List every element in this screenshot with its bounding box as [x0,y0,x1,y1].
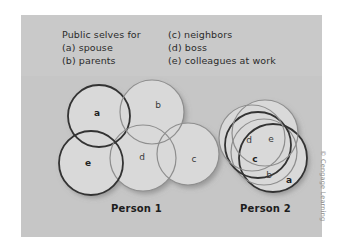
circle-label-d: d [139,152,145,162]
circle-label-a: a [286,175,292,185]
circle-label-d: d [246,135,252,145]
illustration-panel: Public selves for (a) spouse (b) parents… [21,15,322,237]
figure-root: Public selves for (a) spouse (b) parents… [0,0,354,250]
circle-group-person-2: abcde [219,100,307,192]
circle-label-b: b [155,100,161,110]
venn-diagram-area: abcde abcde Person 1 Person 2 [21,15,322,237]
circle-label-e: e [85,158,91,168]
copyright-credit: © Cengage Learning [319,150,327,221]
caption-person-2: Person 2 [240,203,291,214]
circle-label-e: e [268,134,274,144]
caption-person-1: Person 1 [111,203,162,214]
circle-label-c: c [252,154,257,164]
circle-label-b: b [266,170,272,180]
circle-label-a: a [94,108,100,118]
circle-label-c: c [192,154,197,164]
circle-group-person-1: abcde [59,80,219,195]
